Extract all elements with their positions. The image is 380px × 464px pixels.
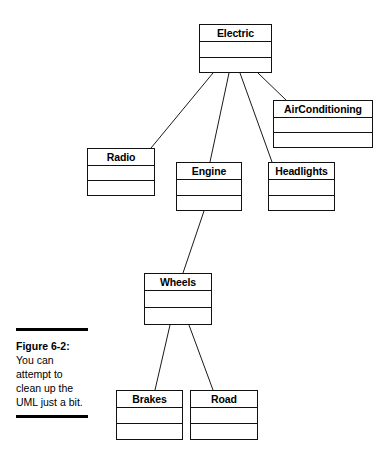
uml-attributes-airconditioning <box>274 118 372 133</box>
caption-rule-bottom <box>16 415 88 418</box>
uml-class-brakes[interactable]: Brakes <box>116 390 183 440</box>
association-wheels-brakes <box>155 325 170 390</box>
uml-class-wheels[interactable]: Wheels <box>144 273 212 325</box>
figure-label: Figure 6-2: <box>16 339 90 353</box>
uml-class-name-engine: Engine <box>177 163 241 180</box>
uml-class-name-wheels: Wheels <box>145 274 211 291</box>
association-engine-wheels <box>183 211 204 273</box>
uml-class-radio[interactable]: Radio <box>87 148 155 196</box>
uml-attributes-radio <box>88 166 154 181</box>
uml-operations-wheels <box>145 308 211 324</box>
figure-page: ElectricAirConditioningRadioEngineHeadli… <box>0 0 380 464</box>
uml-attributes-brakes <box>117 408 182 424</box>
association-wheels-road <box>189 325 213 390</box>
uml-operations-engine <box>177 196 241 211</box>
uml-attributes-electric <box>200 42 271 58</box>
uml-class-name-radio: Radio <box>88 149 154 166</box>
uml-class-road[interactable]: Road <box>190 390 258 440</box>
association-electric-headlights <box>240 73 272 162</box>
uml-class-name-airconditioning: AirConditioning <box>274 101 372 118</box>
uml-operations-brakes <box>117 424 182 439</box>
uml-attributes-wheels <box>145 291 211 308</box>
uml-operations-airconditioning <box>274 133 372 147</box>
uml-attributes-engine <box>177 180 241 196</box>
uml-operations-road <box>191 424 257 439</box>
uml-class-name-headlights: Headlights <box>269 163 334 180</box>
uml-operations-electric <box>200 58 271 73</box>
uml-class-engine[interactable]: Engine <box>176 162 242 211</box>
uml-class-name-road: Road <box>191 391 257 408</box>
figure-caption-text: You can attempt to clean up the UML just… <box>16 353 90 409</box>
uml-operations-headlights <box>269 196 334 211</box>
uml-class-electric[interactable]: Electric <box>199 24 272 73</box>
caption-rule-top <box>16 328 88 331</box>
uml-operations-radio <box>88 181 154 195</box>
uml-class-airconditioning[interactable]: AirConditioning <box>273 100 373 148</box>
association-electric-engine <box>210 73 229 162</box>
association-electric-radio <box>151 73 213 148</box>
association-electric-airconditioning <box>258 73 286 100</box>
figure-caption: Figure 6-2: You can attempt to clean up … <box>16 328 90 418</box>
uml-attributes-road <box>191 408 257 424</box>
uml-class-name-electric: Electric <box>200 25 271 42</box>
uml-class-name-brakes: Brakes <box>117 391 182 408</box>
uml-attributes-headlights <box>269 180 334 196</box>
uml-class-headlights[interactable]: Headlights <box>268 162 335 211</box>
